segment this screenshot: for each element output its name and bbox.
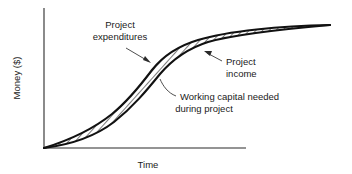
project-cash-flow-figure: Money ($) Time Project expenditures Proj… — [0, 0, 352, 174]
working-capital-band — [30, 10, 350, 160]
figure-canvas: Money ($) Time Project expenditures Proj… — [0, 0, 352, 174]
expenditures-label-line2: expenditures — [93, 31, 148, 42]
expenditures-arrow-icon — [143, 56, 151, 63]
working-capital-label-line2: during project — [175, 103, 233, 114]
expenditures-curve — [44, 25, 330, 148]
working-capital-label-line1: Working capital needed — [180, 91, 279, 102]
income-label-line2: income — [226, 68, 257, 79]
y-axis-label: Money ($) — [11, 57, 22, 100]
x-axis-label: Time — [138, 159, 159, 170]
income-label-line1: Project — [226, 56, 256, 67]
expenditures-label-line1: Project — [105, 19, 135, 30]
working-capital-leader-line — [160, 79, 176, 96]
